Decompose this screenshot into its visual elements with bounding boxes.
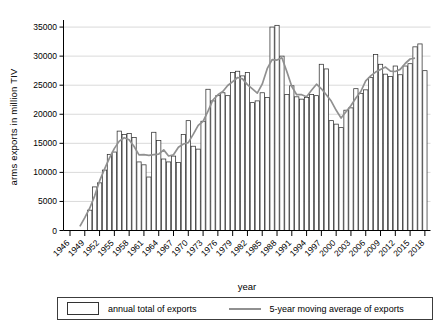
arms-exports-chart: 0500010000150002000025000300003500019461…: [0, 0, 437, 332]
y-axis-label: arms exports in million TIV: [8, 68, 19, 185]
x-tick-labels: 1946194919521955195819611964196719701973…: [51, 231, 427, 259]
svg-text:15000: 15000: [33, 138, 57, 148]
svg-text:25000: 25000: [33, 80, 57, 90]
legend-bar-swatch: [67, 302, 99, 315]
x-axis-label: year: [238, 281, 256, 292]
legend-line-swatch: [229, 308, 261, 310]
svg-text:0: 0: [52, 226, 57, 236]
svg-text:30000: 30000: [33, 51, 57, 61]
y-tick-labels: 05000100001500020000250003000035000: [33, 22, 63, 235]
legend-line-label: 5-year moving average of exports: [270, 304, 404, 314]
svg-text:5000: 5000: [38, 196, 57, 206]
svg-text:2018: 2018: [406, 238, 427, 259]
arms-exports-figure: 0500010000150002000025000300003500019461…: [0, 0, 437, 332]
svg-text:10000: 10000: [33, 167, 57, 177]
svg-text:35000: 35000: [33, 22, 57, 32]
legend: annual total of exports 5-year moving av…: [57, 297, 433, 320]
legend-bar-label: annual total of exports: [108, 304, 197, 314]
svg-text:20000: 20000: [33, 109, 57, 119]
